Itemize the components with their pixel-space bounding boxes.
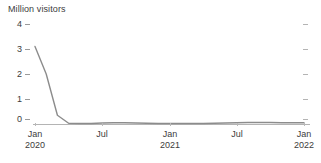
x-tick-month-1: Jul: [80, 129, 124, 140]
x-tick-year-4: 2022: [282, 140, 321, 151]
x-tick-mark-1: [102, 123, 103, 126]
x-tick-label-jan-2020: Jan 2020: [13, 129, 57, 151]
x-tick-month-4: Jan: [282, 129, 321, 140]
x-tick-mark-4: [304, 123, 305, 126]
x-tick-mark-2: [170, 123, 171, 126]
visitors-line-chart: Million visitors 4 3 2 1 0 Jan 2020 Jul …: [0, 0, 321, 163]
x-tick-label-jul-2021: Jul: [215, 129, 259, 140]
x-tick-year-2: 2021: [148, 140, 192, 151]
x-tick-month-0: Jan: [13, 129, 57, 140]
x-tick-month-2: Jan: [148, 129, 192, 140]
data-line-million-visitors: [35, 47, 304, 124]
x-tick-label-jan-2021: Jan 2021: [148, 129, 192, 151]
x-tick-mark-3: [237, 123, 238, 126]
x-tick-year-0: 2020: [13, 140, 57, 151]
x-tick-label-jan-2022: Jan 2022: [282, 129, 321, 151]
x-tick-label-jul-2020: Jul: [80, 129, 124, 140]
x-tick-month-3: Jul: [215, 129, 259, 140]
x-tick-mark-0: [35, 123, 36, 126]
